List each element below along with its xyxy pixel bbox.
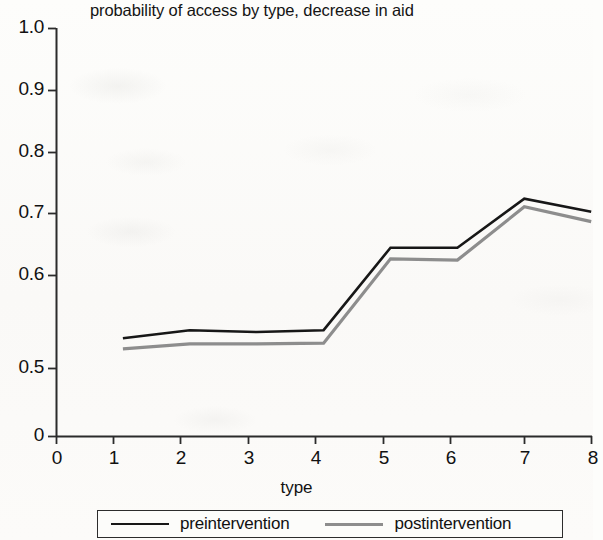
legend-label-postintervention: postintervention bbox=[394, 514, 511, 534]
xtick-label-4: 4 bbox=[301, 447, 331, 469]
xtick-label-3: 3 bbox=[234, 447, 264, 469]
xtick-label-0: 0 bbox=[42, 447, 72, 469]
xtick-label-6: 6 bbox=[436, 447, 466, 469]
xtick-label-2: 2 bbox=[166, 447, 196, 469]
ytick-label-1-0: 1.0 bbox=[0, 16, 44, 38]
ytick-label-0-8: 0.8 bbox=[0, 140, 44, 162]
legend-entry-postintervention: postintervention bbox=[325, 514, 511, 534]
xtick-label-8: 8 bbox=[578, 447, 603, 469]
y-axis-ticks bbox=[48, 29, 56, 437]
xtick-label-1: 1 bbox=[99, 447, 129, 469]
legend-swatch-preintervention bbox=[111, 523, 169, 525]
legend-entry-preintervention: preintervention bbox=[111, 514, 289, 534]
xtick-label-7: 7 bbox=[510, 447, 540, 469]
ytick-label-0-9: 0.9 bbox=[0, 78, 44, 100]
ytick-label-0-6: 0.6 bbox=[0, 263, 44, 285]
ytick-label-0-7: 0.7 bbox=[0, 201, 44, 223]
ytick-label-0-5: 0.5 bbox=[0, 356, 44, 378]
chart-legend: preintervention postintervention bbox=[97, 510, 563, 538]
series-line-postintervention bbox=[123, 207, 591, 349]
legend-swatch-postintervention bbox=[325, 523, 383, 526]
legend-label-preintervention: preintervention bbox=[180, 514, 289, 534]
ytick-label-0: 0 bbox=[0, 424, 44, 446]
x-axis-title: type bbox=[0, 478, 593, 498]
xtick-label-5: 5 bbox=[369, 447, 399, 469]
series-line-preintervention bbox=[123, 199, 591, 338]
